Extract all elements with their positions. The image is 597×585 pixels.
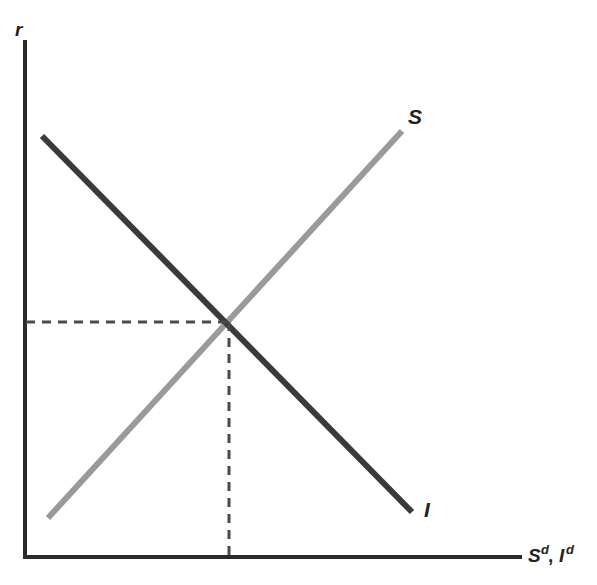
x-axis-label-investment: I	[559, 545, 565, 566]
x-axis-label-comma: ,	[548, 545, 553, 566]
figure-background	[0, 0, 597, 585]
saving-curve-label: S	[408, 105, 422, 128]
x-axis-label-saving: S	[528, 545, 541, 566]
loanable-funds-figure: r S I S d , I d	[0, 0, 597, 585]
chart-canvas: r S I S d , I d	[0, 0, 597, 585]
x-axis-label-investment-superscript: d	[566, 542, 575, 557]
